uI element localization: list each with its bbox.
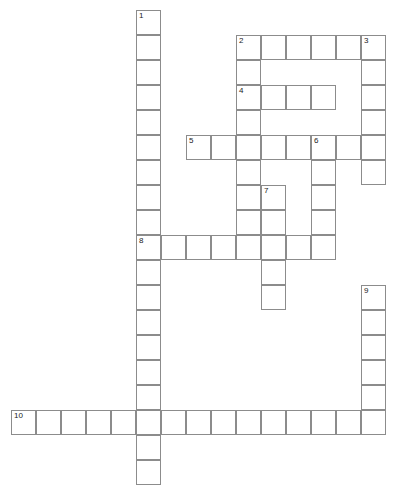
cell-number-label: 6 — [314, 136, 318, 145]
crossword-cell[interactable] — [136, 285, 161, 310]
crossword-cell[interactable] — [361, 310, 386, 335]
crossword-cell[interactable] — [361, 410, 386, 435]
crossword-cell-numbered-8[interactable]: 8 — [136, 235, 161, 260]
crossword-cell[interactable] — [261, 410, 286, 435]
crossword-cell-numbered-7[interactable]: 7 — [261, 185, 286, 210]
crossword-cell[interactable] — [136, 60, 161, 85]
crossword-cell[interactable] — [361, 160, 386, 185]
crossword-cell[interactable] — [136, 135, 161, 160]
crossword-cell[interactable] — [236, 235, 261, 260]
crossword-cell-numbered-9[interactable]: 9 — [361, 285, 386, 310]
crossword-cell[interactable] — [236, 135, 261, 160]
crossword-cell[interactable] — [336, 35, 361, 60]
crossword-cell[interactable] — [361, 135, 386, 160]
crossword-cell-numbered-6[interactable]: 6 — [311, 135, 336, 160]
crossword-cell[interactable] — [361, 385, 386, 410]
crossword-cell[interactable] — [136, 435, 161, 460]
crossword-cell-numbered-3[interactable]: 3 — [361, 35, 386, 60]
crossword-cell[interactable] — [361, 85, 386, 110]
crossword-cell[interactable] — [136, 385, 161, 410]
crossword-cell[interactable] — [311, 185, 336, 210]
crossword-cell[interactable] — [186, 410, 211, 435]
crossword-cell[interactable] — [236, 60, 261, 85]
crossword-cell[interactable] — [236, 110, 261, 135]
crossword-cell[interactable] — [61, 410, 86, 435]
crossword-cell-numbered-5[interactable]: 5 — [186, 135, 211, 160]
crossword-cell[interactable] — [311, 210, 336, 235]
crossword-cell[interactable] — [236, 210, 261, 235]
cell-number-label: 8 — [139, 236, 143, 245]
crossword-cell[interactable] — [136, 310, 161, 335]
crossword-cell[interactable] — [261, 35, 286, 60]
crossword-cell[interactable] — [311, 35, 336, 60]
crossword-cell[interactable] — [136, 210, 161, 235]
crossword-cell[interactable] — [311, 235, 336, 260]
crossword-cell[interactable] — [236, 185, 261, 210]
crossword-cell[interactable] — [311, 85, 336, 110]
crossword-cell[interactable] — [236, 160, 261, 185]
crossword-cell[interactable] — [111, 410, 136, 435]
crossword-cell[interactable] — [336, 135, 361, 160]
crossword-cell-numbered-2[interactable]: 2 — [236, 35, 261, 60]
crossword-cell[interactable] — [186, 235, 211, 260]
crossword-cell[interactable] — [136, 260, 161, 285]
cell-number-label: 2 — [239, 36, 243, 45]
cell-number-label: 7 — [264, 186, 268, 195]
crossword-cell[interactable] — [286, 135, 311, 160]
crossword-cell[interactable] — [136, 110, 161, 135]
crossword-cell[interactable] — [136, 360, 161, 385]
crossword-cell[interactable] — [136, 35, 161, 60]
crossword-cell[interactable] — [86, 410, 111, 435]
crossword-cell[interactable] — [261, 135, 286, 160]
crossword-cell[interactable] — [161, 235, 186, 260]
crossword-cell[interactable] — [311, 410, 336, 435]
crossword-cell[interactable] — [136, 335, 161, 360]
crossword-cell-numbered-10[interactable]: 10 — [11, 410, 36, 435]
crossword-cell[interactable] — [136, 85, 161, 110]
cell-number-label: 9 — [364, 286, 368, 295]
crossword-cell[interactable] — [211, 135, 236, 160]
crossword-cell[interactable] — [36, 410, 61, 435]
crossword-cell[interactable] — [286, 235, 311, 260]
crossword-cell[interactable] — [361, 60, 386, 85]
crossword-cell[interactable] — [286, 35, 311, 60]
crossword-cell[interactable] — [361, 110, 386, 135]
crossword-cell[interactable] — [211, 410, 236, 435]
crossword-cell[interactable] — [136, 460, 161, 485]
crossword-cell[interactable] — [261, 210, 286, 235]
crossword-cell[interactable] — [161, 410, 186, 435]
crossword-cell[interactable] — [236, 410, 261, 435]
crossword-cell[interactable] — [261, 285, 286, 310]
crossword-cell[interactable] — [361, 335, 386, 360]
cell-number-label: 3 — [364, 36, 368, 45]
crossword-cell[interactable] — [336, 410, 361, 435]
crossword-cell[interactable] — [261, 235, 286, 260]
crossword-cell[interactable] — [286, 85, 311, 110]
crossword-cell[interactable] — [211, 235, 236, 260]
crossword-cell[interactable] — [136, 185, 161, 210]
crossword-cell[interactable] — [261, 85, 286, 110]
crossword-cell[interactable] — [261, 260, 286, 285]
crossword-cell[interactable] — [136, 160, 161, 185]
cell-number-label: 10 — [14, 411, 23, 420]
crossword-cell[interactable] — [136, 410, 161, 435]
crossword-cell-numbered-1[interactable]: 1 — [136, 10, 161, 35]
crossword-cell-numbered-4[interactable]: 4 — [236, 85, 261, 110]
cell-number-label: 4 — [239, 86, 243, 95]
crossword-cell[interactable] — [361, 360, 386, 385]
cell-number-label: 1 — [139, 11, 143, 20]
crossword-cell[interactable] — [311, 160, 336, 185]
cell-number-label: 5 — [189, 136, 193, 145]
crossword-cell[interactable] — [286, 410, 311, 435]
